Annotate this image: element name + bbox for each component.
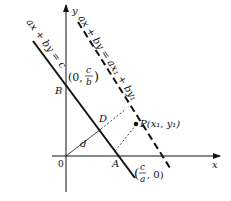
distance-diagram: y x 0 ax + by = c ax + by = ax₁ + by₁ B … [0,0,231,201]
line-through-P [78,22,170,168]
point-P [134,122,138,126]
point-B-label: B [54,85,62,96]
A-coord-open: ( [134,166,139,181]
B-coord-close: ) [94,69,99,84]
line-ax-by-c [33,41,135,178]
A-coord-den: a [140,174,145,184]
x-axis-label: x [212,159,218,170]
dashed-line-equation: ax + by = ax₁ + by₁ [76,13,139,102]
point-P-label: P(x₁, y₁) [139,118,180,129]
dotted-P-right [118,125,136,142]
B-coordinate: (0, c b ) [68,65,99,87]
point-D-label: D [98,113,107,124]
point-A-label: A [111,158,119,169]
B-coord-den: b [86,77,92,87]
A-coord-close: , 0) [147,169,164,180]
dotted-A-to-P [115,125,136,151]
A-coord-num: c [140,162,145,172]
y-axis-label: y [71,5,78,16]
B-coord-open: (0, [68,71,83,84]
A-coordinate: ( c a , 0) [134,162,164,184]
distance-d-label: d [80,138,86,149]
B-coord-num: c [86,65,91,75]
origin-label: 0 [58,159,64,169]
solid-line-equation: ax + by = c [24,17,68,71]
